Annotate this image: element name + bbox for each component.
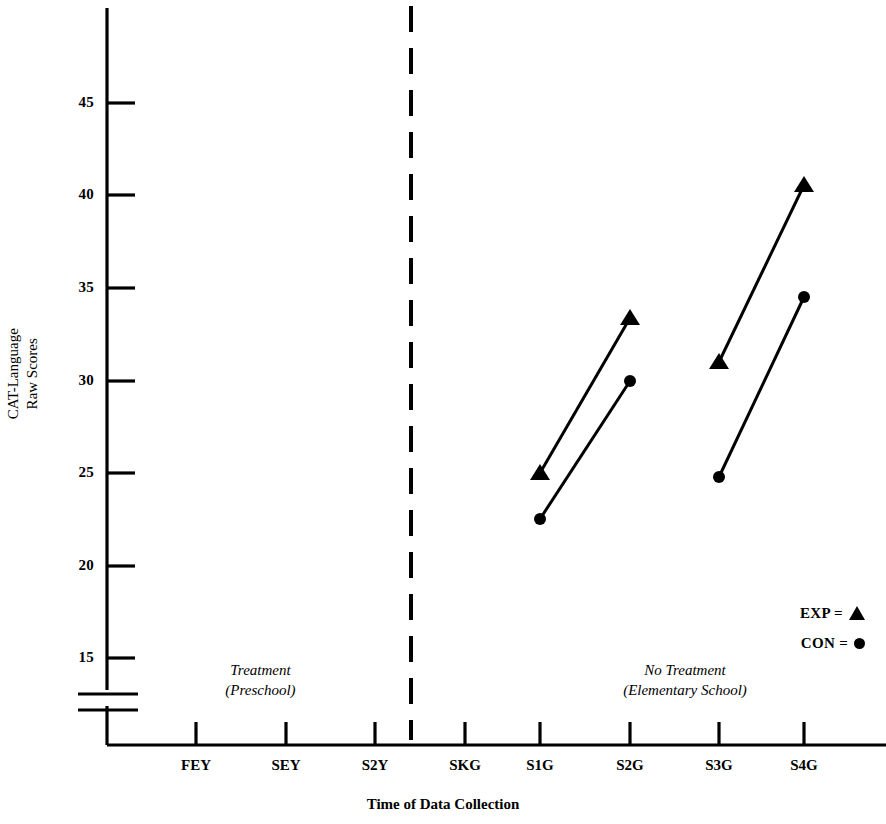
circle-marker-icon	[854, 638, 865, 649]
x-tick-label-sey: SEY	[256, 757, 316, 774]
con-line-s3g-s4g	[719, 297, 804, 477]
legend-label-con: CON =	[801, 636, 848, 651]
x-tick-label-s2y: S2Y	[345, 757, 405, 774]
exp-marker-s3g	[709, 353, 729, 369]
x-tick-label-s4g: S4G	[774, 757, 834, 774]
triangle-marker-icon	[849, 606, 865, 620]
x-tick-marks	[196, 722, 804, 745]
y-tick-label-25: 25	[60, 464, 94, 481]
treatment-annotation-line1: Treatment	[230, 662, 290, 678]
x-tick-label-s1g: S1G	[510, 757, 570, 774]
chart-canvas	[0, 0, 886, 824]
no-treatment-annotation-line2: (Elementary School)	[623, 682, 747, 698]
y-axis-title: CAT-Language Raw Scores	[4, 299, 42, 449]
legend-label-exp: EXP =	[800, 606, 843, 621]
exp-line-s3g-s4g	[719, 185, 804, 362]
con-marker-s2g	[624, 375, 636, 387]
legend-entry-exp: EXP =	[800, 598, 865, 628]
legend-entry-con: CON =	[800, 628, 865, 658]
y-tick-label-20: 20	[60, 557, 94, 574]
y-tick-marks	[107, 103, 135, 658]
treatment-annotation-line2: (Preschool)	[225, 682, 295, 698]
con-marker-s4g	[798, 291, 810, 303]
x-tick-label-fey: FEY	[166, 757, 226, 774]
x-axis-title: Time of Data Collection	[0, 796, 886, 813]
y-axis-title-line2: Raw Scores	[24, 338, 40, 409]
y-tick-label-30: 30	[60, 372, 94, 389]
figure-container: 45 40 35 30 25 20 15 FEY SEY S2Y SKG S1G…	[0, 0, 886, 824]
exp-marker-s1g	[530, 464, 550, 480]
y-axis-title-line1: CAT-Language	[5, 328, 21, 419]
con-marker-s3g	[713, 471, 725, 483]
chart-legend: EXP = CON =	[800, 598, 865, 658]
x-tick-label-s3g: S3G	[689, 757, 749, 774]
exp-marker-s4g	[794, 176, 814, 192]
treatment-phase-annotation: Treatment (Preschool)	[178, 661, 343, 700]
no-treatment-phase-annotation: No Treatment (Elementary School)	[560, 661, 810, 700]
y-tick-label-35: 35	[60, 279, 94, 296]
y-tick-label-15: 15	[60, 649, 94, 666]
no-treatment-annotation-line1: No Treatment	[644, 662, 726, 678]
y-tick-label-45: 45	[60, 94, 94, 111]
con-marker-s1g	[534, 513, 546, 525]
exp-marker-s2g	[620, 309, 640, 325]
x-tick-label-skg: SKG	[435, 757, 495, 774]
y-tick-label-40: 40	[60, 186, 94, 203]
x-tick-label-s2g: S2G	[600, 757, 660, 774]
